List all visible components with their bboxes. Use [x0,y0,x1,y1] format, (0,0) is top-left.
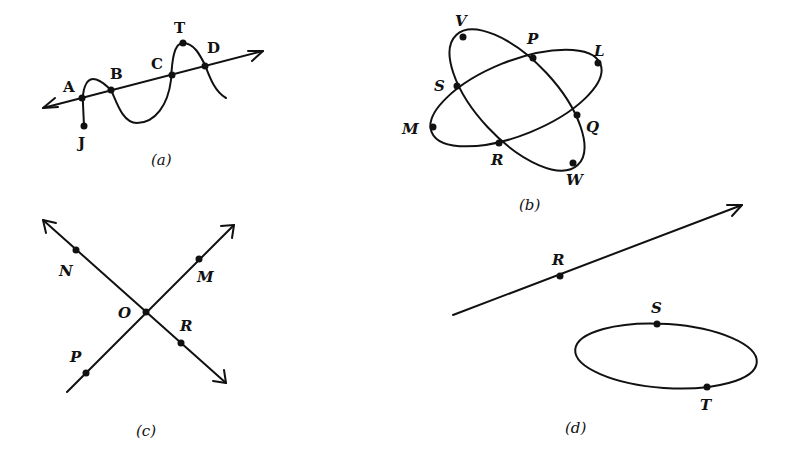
point-V [460,34,467,41]
figure-a: A B C D T J (a) [43,19,263,169]
caption-a: (a) [151,151,172,169]
label-L: L [593,42,605,60]
point-T [180,40,187,47]
point-B [108,87,115,94]
label-D: D [207,39,220,57]
point-S [454,83,461,90]
caption-d: (d) [565,419,586,437]
point-R [557,273,564,280]
point-P [83,370,90,377]
figure-d: R S T (d) [453,205,759,437]
label-P: P [69,348,82,366]
label-P: P [526,30,539,48]
point-R [496,140,503,147]
point-M [196,256,203,263]
label-S: S [434,77,445,95]
point-R [178,340,185,347]
point-P [530,55,537,62]
point-W [570,160,577,167]
point-M [430,124,437,131]
figure-b: V P L S Q M R W (b) [401,8,614,214]
caption-b: (b) [519,196,540,214]
caption-c: (c) [136,422,156,440]
label-N: N [58,262,74,280]
point-S [654,321,661,328]
label-Q: Q [586,118,599,136]
label-R: R [179,317,192,335]
label-J: J [76,134,85,152]
label-M: M [401,120,419,138]
figure-c: N M O R P (c) [43,220,234,440]
point-L [595,60,602,67]
ellipse-ST [573,318,759,395]
label-R: R [551,251,564,269]
label-R: R [490,151,503,169]
label-T: T [174,19,186,37]
label-T: T [700,396,713,414]
point-A [79,95,86,102]
label-V: V [455,12,468,30]
point-N [73,247,80,254]
label-O: O [118,304,131,322]
point-C [169,72,176,79]
geometry-figure: A B C D T J (a) V P L S Q M R W (b) [0,0,798,469]
point-D [202,63,209,70]
point-Q [574,112,581,119]
point-O [143,309,150,316]
ray-R [453,205,742,315]
label-M: M [196,268,214,286]
point-J [81,123,88,130]
arrow-left-icon [43,98,58,108]
label-B: B [110,65,123,83]
label-A: A [62,78,75,96]
label-W: W [566,171,585,189]
label-C: C [151,55,163,73]
ellipse-1 [427,8,607,193]
point-T [704,384,711,391]
label-S: S [651,299,662,317]
